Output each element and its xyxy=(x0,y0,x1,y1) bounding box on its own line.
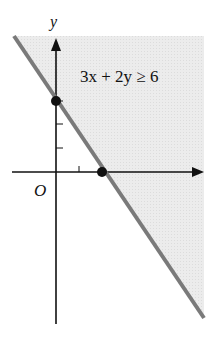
y-intercept-point xyxy=(51,96,61,106)
inequality-graph: y O 3x + 2y ≥ 6 xyxy=(0,0,214,355)
y-axis-label: y xyxy=(48,13,58,31)
origin-label: O xyxy=(34,181,46,200)
x-intercept-point xyxy=(97,167,107,177)
inequality-label: 3x + 2y ≥ 6 xyxy=(80,67,158,86)
